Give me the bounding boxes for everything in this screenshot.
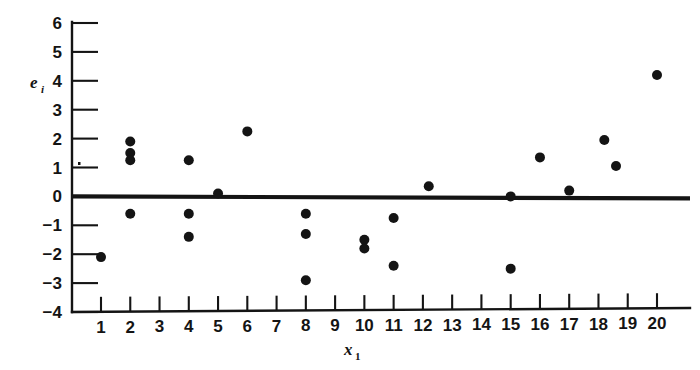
y-axis-tick-label: 1: [53, 159, 62, 178]
data-point-group: [96, 70, 662, 285]
data-point: [611, 161, 621, 171]
x-axis-tick-label: 16: [530, 315, 549, 334]
y-axis-tick-label: 4: [53, 72, 63, 91]
x-axis-tick-label: 15: [501, 315, 520, 334]
x-axis-tick-label: 12: [413, 316, 432, 335]
x-axis-tick-label: 8: [301, 316, 310, 335]
data-point: [506, 191, 516, 201]
data-point: [389, 261, 399, 271]
y-axis-tick-label: 0: [53, 187, 62, 206]
x-axis-title-subscript: 1: [355, 350, 361, 362]
x-axis-tick-label: 9: [330, 316, 339, 335]
data-point: [184, 209, 194, 219]
y-axis-tick-label: 5: [53, 43, 62, 62]
x-axis-line: [72, 308, 690, 312]
x-axis-tick-label: 14: [472, 315, 491, 334]
data-point: [125, 136, 135, 146]
x-axis-tick-label: 3: [155, 317, 164, 336]
data-point: [506, 264, 516, 274]
x-axis-tick-label: 4: [184, 317, 194, 336]
data-point: [242, 126, 252, 136]
y-axis-tick-label: −3: [43, 274, 62, 293]
x-axis-tick-label-group: 1234567891011121314151617181920: [96, 314, 666, 337]
zero-residual-line: [72, 196, 690, 198]
data-point: [125, 209, 135, 219]
x-axis-tick-label: 18: [589, 315, 608, 334]
y-axis-title: e i: [30, 73, 45, 95]
data-point: [564, 186, 574, 196]
data-point: [301, 209, 311, 219]
x-axis-tick-label: 10: [355, 316, 374, 335]
data-point: [359, 235, 369, 245]
data-point: [125, 155, 135, 165]
x-axis-tick-label: 5: [213, 317, 222, 336]
x-axis-tick-label: 2: [126, 318, 135, 337]
y-axis-tick-label: −4: [43, 303, 63, 322]
data-point: [301, 229, 311, 239]
x-axis-tick-label: 17: [560, 315, 579, 334]
x-axis-tick-label: 19: [618, 314, 637, 333]
data-point: [184, 155, 194, 165]
data-point: [599, 135, 609, 145]
residual-scatter-figure: −4−3−2−10123456 123456789101112131415161…: [0, 0, 700, 370]
y-axis-tick-label: −1: [43, 216, 62, 235]
y-axis-tick-label-group: −4−3−2−10123456: [43, 14, 63, 322]
y-axis-tick-label: 3: [53, 101, 62, 120]
data-point: [535, 152, 545, 162]
y-axis-tick-label: 6: [53, 14, 62, 33]
data-point: [301, 275, 311, 285]
x-axis-tick-label: 13: [443, 316, 462, 335]
data-point: [184, 232, 194, 242]
y-axis-tick-label: 2: [53, 130, 62, 149]
data-point: [213, 189, 223, 199]
data-point: [652, 70, 662, 80]
x-axis-title: x 1: [343, 340, 361, 362]
x-axis-tick-label: 1: [96, 318, 105, 337]
data-point: [359, 243, 369, 253]
y-axis-title-base: e: [30, 73, 38, 92]
data-point: [389, 213, 399, 223]
y-axis-tick-label: −2: [43, 245, 62, 264]
x-axis-tick-label: 6: [243, 317, 252, 336]
print-speck-artifact: [78, 162, 81, 165]
x-axis-tick-label: 11: [385, 316, 403, 335]
y-axis-title-subscript: i: [41, 83, 45, 95]
x-axis-tick-label: 7: [272, 317, 281, 336]
x-axis-tick-label: 20: [648, 314, 667, 333]
x-axis-title-base: x: [343, 340, 353, 359]
y-axis-tick-mark-group: [72, 23, 98, 312]
data-point: [96, 252, 106, 262]
data-point: [424, 181, 434, 191]
plot-canvas: −4−3−2−10123456 123456789101112131415161…: [0, 0, 700, 370]
